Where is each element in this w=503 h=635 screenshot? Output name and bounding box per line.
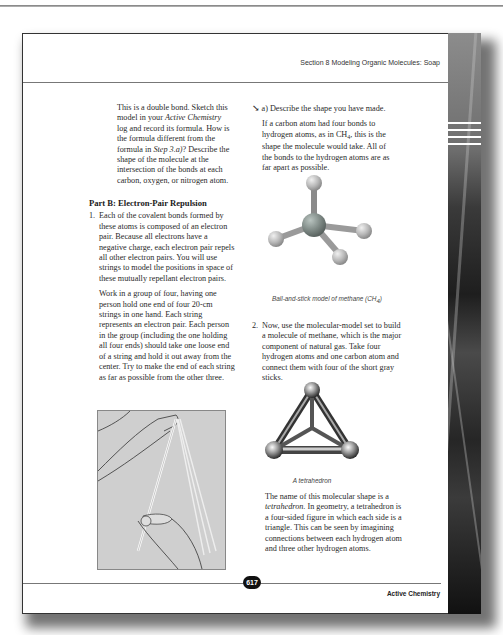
running-header: Section 8 Modeling Organic Molecules: So… [250, 59, 440, 66]
methane-ball-and-stick-model [262, 175, 382, 275]
intro-paragraph: This is a double bond. Sketch this model… [117, 103, 233, 186]
step-2: 2. Now, use the molecular-model set to b… [252, 321, 402, 388]
step-1-paragraph-2: Work in a group of four, having one pers… [99, 289, 235, 383]
closing-paragraph: The name of this molecular shape is a te… [265, 492, 405, 559]
step-1: 1. Each of the covalent bonds formed by … [89, 211, 235, 383]
step-2-text: Now, use the molecular-model set to buil… [262, 321, 402, 383]
page-number-badge: 617 [243, 576, 261, 589]
header-divider [23, 82, 448, 83]
tetrahedron-model [262, 380, 362, 460]
part-heading: Part B: Electron-Pair Repulsion [89, 198, 235, 208]
top-rule [0, 5, 503, 7]
photo-strip-decoration [448, 33, 481, 614]
step-number: 1. [89, 211, 95, 221]
footer-book-title: Active Chemistry [330, 590, 440, 597]
part-b-section: Part B: Electron-Pair Repulsion 1. Each … [89, 198, 235, 388]
step-1-paragraph-1: Each of the covalent bonds formed by the… [99, 211, 235, 284]
question-a: ↘a) Describe the shape you have made. [252, 103, 392, 114]
hands-holding-strings-illustration [97, 410, 226, 570]
pencil-log-icon: ↘ [252, 103, 260, 113]
methane-figure-caption: Ball-and-stick model of methane (CH4) [252, 295, 402, 304]
tetrahedron-caption: A tetrahedron [262, 477, 362, 484]
step-number: 2. [252, 321, 258, 331]
question-a-answer: If a carbon atom had four bonds to hydro… [252, 119, 392, 173]
footer-divider [23, 583, 441, 584]
right-column-top: ↘a) Describe the shape you have made. If… [252, 103, 392, 178]
hands-strings-icon [98, 411, 225, 569]
left-column: This is a double bond. Sketch this model… [117, 103, 233, 191]
